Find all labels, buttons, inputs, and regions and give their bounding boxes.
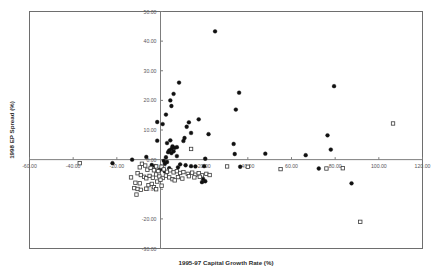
y-tick-label: 40.00: [144, 38, 157, 44]
data-point-open: [134, 181, 137, 184]
data-point-open: [129, 176, 132, 179]
data-point-open: [160, 184, 163, 187]
data-point-filled: [213, 29, 217, 33]
data-point-open: [145, 187, 148, 190]
data-point-filled: [168, 138, 172, 142]
data-point-open: [325, 167, 328, 170]
data-point-filled: [177, 81, 181, 85]
data-point-open: [208, 173, 211, 176]
data-point-open: [225, 165, 228, 168]
data-point-filled: [161, 122, 165, 126]
scatter-chart: -60.00-40.00-20.000.0020.0040.0060.0080.…: [0, 0, 442, 277]
data-point-filled: [170, 151, 174, 155]
x-tick-label: 100.00: [371, 163, 387, 169]
data-point-filled: [187, 120, 191, 124]
data-point-open: [152, 169, 155, 172]
y-tick-label: -20.00: [142, 216, 157, 222]
data-point-filled: [184, 163, 188, 167]
chart-canvas: -60.00-40.00-20.000.0020.0040.0060.0080.…: [0, 0, 442, 277]
data-point-filled: [238, 165, 242, 169]
data-point-open: [279, 167, 282, 170]
data-point-open: [154, 165, 157, 168]
data-point-filled: [207, 132, 211, 136]
data-point-filled: [164, 155, 168, 159]
x-axis-title: 1995-97 Capital Growth Rate (%): [179, 259, 274, 266]
data-point-filled: [130, 158, 134, 162]
data-point-filled: [155, 120, 159, 124]
y-tick-label: 20.00: [144, 97, 157, 103]
data-point-open: [246, 165, 249, 168]
data-point-filled: [168, 98, 172, 102]
data-point-open: [135, 193, 138, 196]
data-point-filled: [263, 152, 267, 156]
data-point-filled: [185, 125, 189, 129]
data-point-filled: [203, 157, 207, 161]
data-point-filled: [197, 117, 201, 121]
data-point-filled: [332, 84, 336, 88]
data-point-filled: [232, 142, 236, 146]
y-tick-label: 30.00: [144, 68, 157, 74]
data-point-filled: [175, 154, 179, 158]
data-point-open: [138, 166, 141, 169]
data-point-filled: [326, 133, 330, 137]
data-point-open: [173, 179, 176, 182]
data-point-filled: [164, 113, 168, 117]
data-point-open: [341, 167, 344, 170]
data-point-filled: [233, 152, 237, 156]
data-point-open: [144, 164, 147, 167]
data-point-filled: [170, 104, 174, 108]
data-point-open: [187, 175, 190, 178]
data-point-filled: [176, 165, 180, 169]
data-point-filled: [172, 92, 176, 96]
data-point-open: [159, 178, 162, 181]
data-point-open: [154, 188, 157, 191]
data-point-filled: [317, 167, 321, 171]
data-point-filled: [194, 165, 198, 169]
data-point-open: [182, 170, 185, 173]
x-tick-label: -60.00: [22, 163, 37, 169]
y-axis-title: 1998 EP Spread (%): [8, 101, 15, 159]
data-point-filled: [165, 141, 169, 145]
x-tick-label: 80.00: [329, 163, 342, 169]
data-point-filled: [155, 139, 159, 143]
data-point-filled: [350, 181, 354, 185]
data-point-filled: [237, 91, 241, 95]
data-point-filled: [234, 108, 238, 112]
data-point-filled: [200, 180, 204, 184]
x-tick-label: 60.00: [285, 163, 298, 169]
data-point-open: [78, 161, 81, 164]
data-point-filled: [202, 164, 206, 168]
data-point-filled: [144, 155, 148, 159]
data-point-filled: [189, 164, 193, 168]
data-point-open: [139, 188, 142, 191]
data-point-open: [198, 175, 201, 178]
data-point-filled: [329, 148, 333, 152]
y-tick-label: 50.00: [144, 9, 157, 15]
data-point-filled: [175, 145, 179, 149]
data-point-open: [193, 176, 196, 179]
data-point-open: [391, 122, 394, 125]
chart-background: [0, 0, 442, 277]
x-tick-label: 120.00: [415, 163, 431, 169]
data-point-open: [189, 147, 192, 150]
data-point-filled: [111, 161, 115, 165]
y-tick-label: -30.00: [142, 246, 157, 252]
data-point-open: [138, 182, 141, 185]
data-point-filled: [189, 131, 193, 135]
data-point-open: [181, 177, 184, 180]
y-tick-label: 10.00: [144, 127, 157, 133]
data-point-open: [359, 220, 362, 223]
data-point-filled: [182, 139, 186, 143]
data-point-filled: [304, 153, 308, 157]
